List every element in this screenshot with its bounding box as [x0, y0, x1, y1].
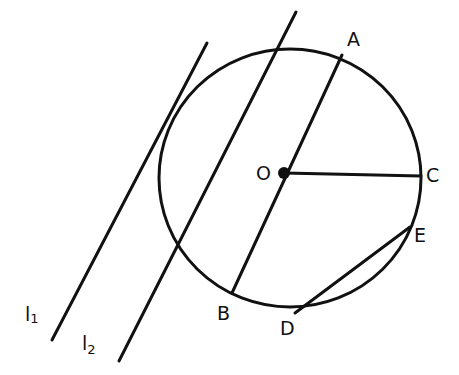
- label-b: B: [217, 302, 230, 324]
- geometry-diagram: O A B C D E l1 l2: [0, 0, 459, 375]
- label-e: E: [414, 224, 426, 246]
- line-l2: [119, 12, 296, 361]
- label-a: A: [347, 28, 360, 50]
- label-l1: l1: [25, 303, 39, 326]
- segment-de: [295, 227, 410, 313]
- line-l1: [52, 43, 207, 340]
- circle: [159, 49, 421, 307]
- center-point: [278, 167, 290, 179]
- segment-oc: [284, 173, 421, 176]
- label-l2: l2: [82, 332, 96, 357]
- label-d: D: [280, 317, 295, 339]
- label-o: O: [256, 162, 271, 184]
- label-c: C: [426, 164, 439, 186]
